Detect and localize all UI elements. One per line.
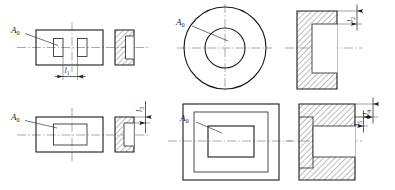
quadrant-bottom-left: A0 l3 bbox=[10, 101, 150, 163]
label-l1: l1 bbox=[65, 66, 70, 76]
label-l3: l3 bbox=[135, 107, 145, 112]
leader-a0-bl bbox=[25, 121, 57, 129]
plan-outline-middle-br bbox=[194, 112, 268, 172]
label-a0-tr: A0 bbox=[175, 17, 185, 28]
bore-blank-tr bbox=[312, 24, 338, 73]
label-a0-br: A0 bbox=[179, 113, 189, 124]
pocket-blank-br bbox=[313, 126, 356, 157]
plan-outline-outer-br bbox=[183, 104, 279, 180]
quadrant-top-left: A0 l1 bbox=[10, 22, 148, 80]
quadrant-top-right: A0 l2 bbox=[175, 4, 362, 92]
notch-blank-bl bbox=[124, 123, 134, 146]
pocket-outline-bl bbox=[54, 124, 88, 145]
label-a0-tl: A0 bbox=[10, 25, 20, 36]
section-view-tl bbox=[115, 30, 134, 65]
label-a0-bl: A0 bbox=[10, 112, 20, 123]
label-l2: l2 bbox=[346, 17, 356, 22]
leader-a0-br bbox=[196, 122, 222, 133]
section-view-bl bbox=[115, 117, 134, 152]
technical-drawing-root: A0 l1 bbox=[0, 0, 395, 190]
dimension-l3-bl bbox=[134, 101, 150, 133]
leader-a0-tl bbox=[25, 34, 58, 46]
plan-outline-inner-br bbox=[208, 126, 254, 157]
notch-blank-tl bbox=[126, 36, 134, 59]
section-view-br bbox=[286, 104, 362, 180]
dimension-l1-tl bbox=[55, 57, 86, 81]
plan-outline-bl bbox=[36, 117, 103, 152]
drawing-canvas: A0 l1 bbox=[0, 0, 395, 190]
quadrant-bottom-right: A0 l4 l5 bbox=[168, 98, 378, 181]
